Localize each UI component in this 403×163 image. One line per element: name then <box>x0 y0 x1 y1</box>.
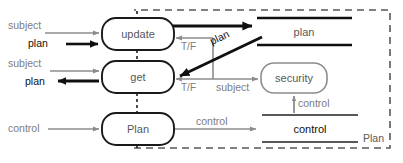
flow-plan-to-update: plan <box>28 37 98 49</box>
flow-subject-to-update: subject <box>8 19 99 33</box>
flow-plan-from-get: plan <box>25 75 99 87</box>
boundary-label: Plan <box>363 132 384 144</box>
flow-label-control-plan: control <box>8 122 40 134</box>
flow-label-plan-update: plan <box>28 37 48 49</box>
datastore-plan-label: plan <box>294 26 315 38</box>
datastore-plan: plan <box>257 18 352 45</box>
flow-label-subject-update: subject <box>8 19 41 31</box>
dfd-diagram-canvas: Plan subject plan subject plan control <box>0 0 403 163</box>
process-plan-label: Plan <box>127 123 149 135</box>
tf-return-lines: T/F T/F <box>176 38 213 93</box>
datastore-control-label: control <box>293 123 326 135</box>
process-get-label: get <box>130 71 145 83</box>
flow-label-subject-get: subject <box>8 57 41 69</box>
process-plan: Plan <box>102 113 174 145</box>
flow-control-to-plan: control <box>8 122 99 134</box>
flow-label-subject-security: subject <box>216 81 249 93</box>
flow-label-tf-get: T/F <box>181 82 196 93</box>
process-security-label: security <box>275 72 313 84</box>
flow-control-store-to-security: control <box>294 96 330 113</box>
flow-subject-to-get: subject <box>8 57 99 71</box>
datastore-control: control <box>262 115 358 142</box>
process-update-label: update <box>121 28 155 40</box>
process-security: security <box>261 63 327 93</box>
process-update: update <box>102 18 174 50</box>
process-get: get <box>102 61 174 93</box>
flow-label-control-store: control <box>196 115 228 127</box>
flow-subject-to-security: subject <box>213 79 258 93</box>
flow-label-plan-get: plan <box>25 75 45 87</box>
flow-label-plan-diagonal: plan <box>208 27 231 46</box>
flow-plan-to-control-store: control <box>174 115 256 129</box>
flow-label-tf-update: T/F <box>181 41 196 52</box>
flow-label-control-security: control <box>298 97 330 109</box>
